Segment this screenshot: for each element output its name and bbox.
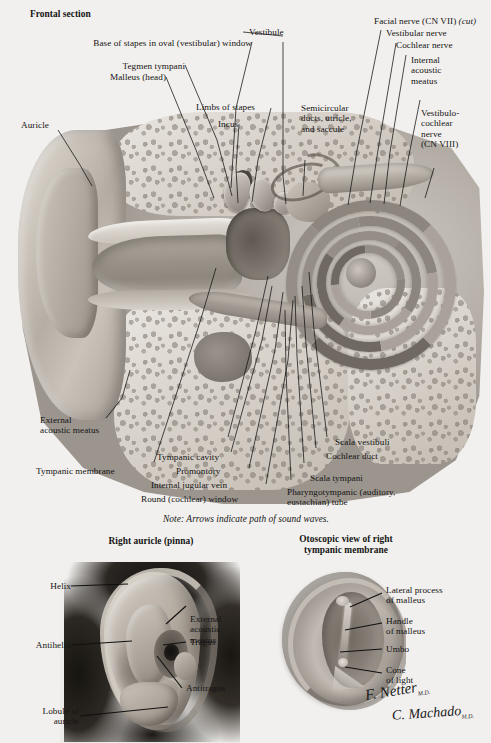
tragus-structure xyxy=(174,652,196,680)
label-handle-of-malleus: Handle of malleus xyxy=(386,616,425,637)
auricle-concha xyxy=(36,168,98,338)
label-promontory: Promontory xyxy=(176,466,220,476)
label-round-window: Round (cochlear) window xyxy=(141,494,238,504)
umbo-structure xyxy=(338,658,348,667)
label-lateral-process-of-malleus: Lateral process of malleus xyxy=(386,585,443,606)
label-vestibule: Vestibule xyxy=(249,27,284,37)
auricle-panel-title: Right auricle (pinna) xyxy=(84,536,218,547)
label-incus: Incus xyxy=(218,119,238,129)
machado-signature-suffix: M.D. xyxy=(461,713,474,720)
label-malleus-head: Malleus (head) xyxy=(0,72,166,82)
label-cochlear-nerve: Cochlear nerve xyxy=(396,40,453,50)
frontal-section-illustration xyxy=(18,108,484,508)
label-helix: Helix xyxy=(0,581,71,591)
label-umbo: Umbo xyxy=(386,644,409,654)
label-base-of-stapes: Base of stapes in oval (vestibular) wind… xyxy=(0,38,252,48)
label-internal-jugular-vein: Internal jugular vein xyxy=(151,480,227,490)
label-tympanic-cavity: Tympanic cavity xyxy=(157,452,219,462)
figure-page: Frontal section Vestibule Base of stapes… xyxy=(0,0,491,743)
label-scala-vestibuli: Scala vestibuli xyxy=(335,437,390,447)
label-limbs-of-stapes: Limbs of stapes xyxy=(196,102,255,112)
netter-signature-suffix: M.D. xyxy=(417,689,430,697)
otoscopic-panel-title: Otoscopic view of right tympanic membran… xyxy=(276,534,416,556)
tympanic-cavity-space xyxy=(226,208,290,280)
lateral-process-structure xyxy=(336,596,349,606)
label-external-acoustic-meatus: External acoustic meatus xyxy=(40,415,99,436)
page-title: Frontal section xyxy=(30,9,91,20)
label-antihelix: Antihelix xyxy=(0,640,71,650)
sound-waves-note: Note: Arrows indicate path of sound wave… xyxy=(86,514,406,524)
label-lobule-of-auricle: Lobule of auricle xyxy=(0,706,79,727)
label-facial-nerve-cut: (cut) xyxy=(459,16,477,26)
cochlea-modiolus xyxy=(346,258,376,288)
right-auricle-photograph xyxy=(60,556,240,743)
label-tegmen-tympani: Tegmen tympani xyxy=(0,61,185,71)
label-tragus: Tragus xyxy=(190,637,216,647)
label-cochlear-duct: Cochlear duct xyxy=(326,451,378,461)
pars-tensa xyxy=(322,592,384,688)
label-facial-nerve: Facial nerve (CN VII) (cut) xyxy=(374,16,476,26)
label-antitragus: Antitragus xyxy=(186,683,225,693)
label-facial-nerve-text: Facial nerve (CN VII) xyxy=(374,16,459,26)
label-semicircular-ducts: Semicircular ducts, utricle, and saccule xyxy=(301,103,352,134)
label-auricle: Auricle xyxy=(21,120,49,130)
label-scala-tympani: Scala tympani xyxy=(310,473,363,483)
label-internal-acoustic-meatus: Internal acoustic meatus xyxy=(411,55,442,86)
label-pharyngotympanic-tube: Pharyngotympanic (auditory, eustachian) … xyxy=(287,487,395,508)
label-vestibular-nerve: Vestibular nerve xyxy=(386,28,447,38)
label-vestibulocochlear-nerve: Vestibulo- cochlear nerve (CN VIII) xyxy=(421,108,459,150)
label-tympanic-membrane: Tympanic membrane xyxy=(36,466,115,476)
internal-jugular-vein-structure xyxy=(194,332,252,382)
